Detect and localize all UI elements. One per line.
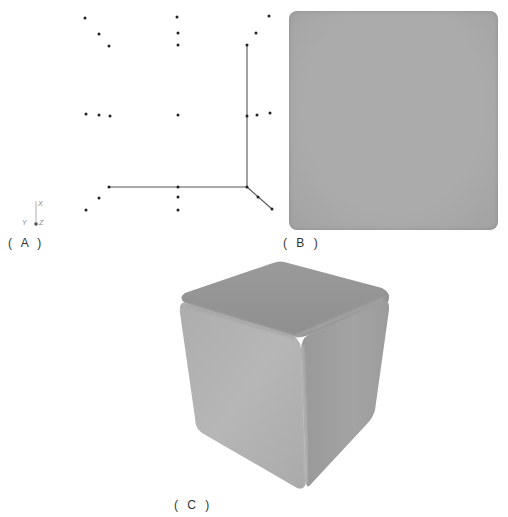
- control-point: [177, 209, 180, 212]
- panel-b-flat-view: [289, 11, 498, 230]
- control-point: [255, 32, 258, 35]
- control-point: [177, 186, 180, 189]
- control-point: [271, 208, 274, 211]
- control-point: [269, 112, 272, 115]
- control-point: [257, 196, 260, 199]
- control-point: [98, 197, 101, 200]
- control-point: [176, 16, 179, 19]
- control-point: [177, 114, 180, 117]
- control-point: [246, 44, 249, 47]
- control-point: [84, 17, 87, 20]
- control-point: [177, 196, 180, 199]
- panel-c-cube-render: [170, 255, 400, 500]
- panel-a-label: ( A ): [8, 236, 44, 250]
- control-point: [246, 115, 249, 118]
- control-point: [108, 186, 111, 189]
- control-point: [85, 113, 88, 116]
- panel-b-label: ( B ): [283, 236, 321, 250]
- control-point: [98, 33, 101, 36]
- control-point: [85, 209, 88, 212]
- skeleton-line: [247, 187, 272, 209]
- panel-c-label: ( C ): [174, 498, 212, 512]
- control-point: [109, 115, 112, 118]
- axis-y-label: Y: [22, 219, 27, 226]
- axis-x-label: X: [38, 200, 43, 207]
- control-point: [246, 186, 249, 189]
- control-point: [177, 44, 180, 47]
- axis-z-label: Z: [39, 219, 43, 226]
- control-point: [268, 15, 271, 18]
- control-point: [256, 114, 259, 117]
- control-point: [98, 114, 101, 117]
- control-point: [177, 32, 180, 35]
- control-point: [108, 45, 111, 48]
